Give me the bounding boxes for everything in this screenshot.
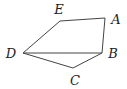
edge-c-d [23, 53, 73, 68]
edge-d-e [23, 21, 60, 53]
vertex-label-d: D [5, 46, 17, 61]
vertex-label-b: B [107, 46, 118, 61]
vertex-label-e: E [53, 2, 64, 17]
edge-e-a [60, 18, 105, 21]
pentagon-diagram: A B C D E [0, 0, 127, 89]
edge-a-b [102, 18, 105, 53]
vertex-label-a: A [110, 12, 120, 27]
vertex-label-c: C [70, 73, 80, 88]
edge-b-c [73, 53, 102, 68]
